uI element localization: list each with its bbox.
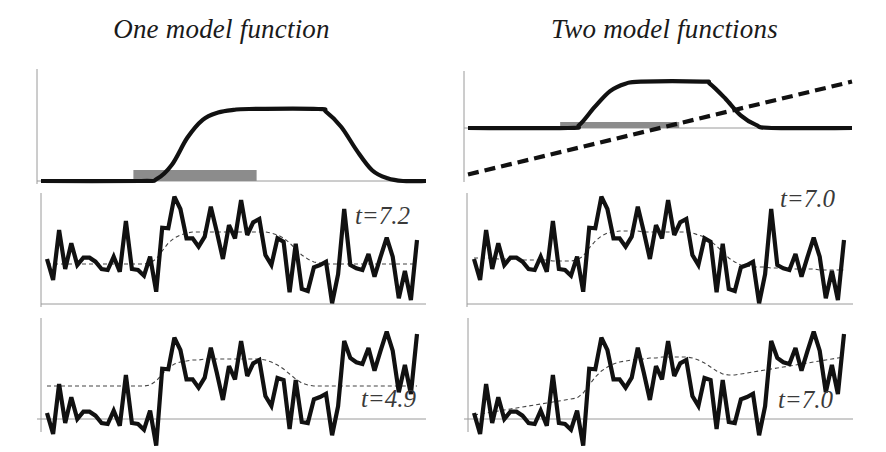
data-and-fit [474,197,844,304]
data-line [474,197,844,304]
panel-middle-right-data: t=7.0 [467,185,853,307]
fit-line [47,232,417,264]
panel-top-left-model [37,69,426,184]
t-statistic-label: t=7.2 [355,202,410,229]
panel-bottom-left-data: t=4.9 [37,318,426,446]
model-bump-line [468,81,852,128]
panel-bottom-right-data: t=7.0 [464,318,853,446]
model-curves [468,81,852,174]
t-statistic-label: t=4.9 [361,385,417,412]
panel-top-right-models [464,71,852,182]
figure-canvas: t=7.2 t=7.0 t=4.9 t=7.0 [0,0,886,452]
t-statistic-label: t=7.0 [778,386,834,413]
t-statistic-label: t=7.0 [780,185,836,212]
fit-line [474,231,844,270]
panel-middle-left-data: t=7.2 [41,193,426,307]
